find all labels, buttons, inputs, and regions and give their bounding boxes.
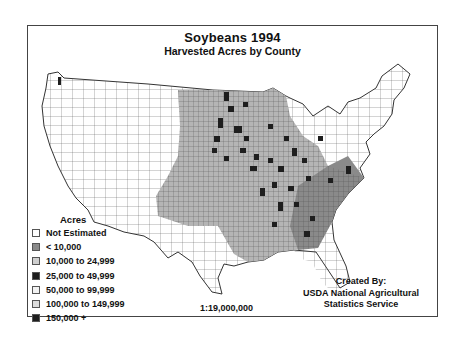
legend-item: 150,000 + [32,311,125,325]
map-scale: 1:19,000,000 [200,303,253,313]
credit-block: Created By: USDA National Agricultural S… [291,276,431,311]
legend-item: 25,000 to 49,999 [32,269,125,283]
legend-swatch [32,243,40,251]
legend-item: < 10,000 [32,240,125,254]
map-frame: Soybeans 1994 Harvested Acres by County [27,25,438,317]
credit-line: Created By: [291,276,431,288]
legend-item: 100,000 to 149,999 [32,297,125,311]
legend-title: Acres [60,214,125,225]
legend-swatch [32,300,40,308]
credit-line: USDA National Agricultural [291,288,431,300]
legend-swatch [32,229,40,237]
legend-swatch [32,314,40,322]
legend-swatch [32,257,40,265]
legend-item: 10,000 to 24,999 [32,254,125,268]
legend: Acres Not Estimated < 10,000 10,000 to 2… [32,214,125,325]
legend-swatch [32,286,40,294]
credit-line: Statistics Service [291,299,431,311]
legend-item: Not Estimated [32,226,125,240]
legend-swatch [32,272,40,280]
legend-item: 50,000 to 99,999 [32,283,125,297]
